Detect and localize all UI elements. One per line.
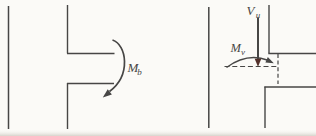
- diagram-canvas: M b V u M v: [0, 0, 316, 136]
- moment-mv-subscript: v: [241, 47, 245, 57]
- connection-forces-figure: M b V u M v: [0, 0, 316, 136]
- bottom-scan-shadow: [0, 129, 316, 136]
- moment-mv-label: M: [230, 41, 242, 55]
- moment-mb-subscript: b: [137, 67, 142, 77]
- shear-vu-subscript: u: [256, 10, 261, 20]
